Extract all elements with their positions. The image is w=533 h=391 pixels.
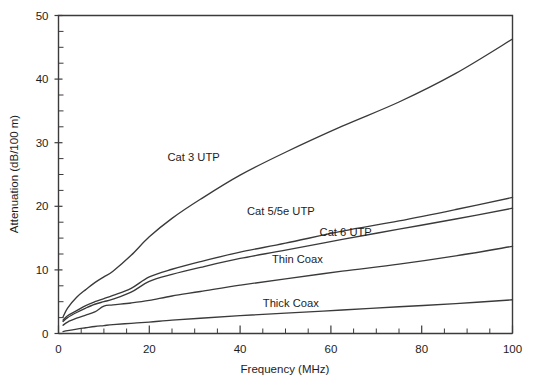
chart-canvas: 020406080100 01020304050 Cat 3 UTPCat 5/… xyxy=(0,0,533,391)
x-tick-label: 20 xyxy=(143,343,156,355)
y-tick-label: 30 xyxy=(36,137,49,149)
series-label: Thick Coax xyxy=(263,297,319,309)
y-axis-tick-labels: 01020304050 xyxy=(36,10,49,340)
x-tick-label: 40 xyxy=(234,343,247,355)
x-tick-label: 60 xyxy=(325,343,338,355)
y-tick-label: 40 xyxy=(36,73,49,85)
x-axis-title: Frequency (MHz) xyxy=(241,363,330,375)
series-label: Thin Coax xyxy=(272,253,323,265)
series-label: Cat 3 UTP xyxy=(167,151,219,163)
y-tick-label: 10 xyxy=(36,264,49,276)
attenuation-vs-frequency-chart: 020406080100 01020304050 Cat 3 UTPCat 5/… xyxy=(0,0,533,391)
y-tick-label: 0 xyxy=(42,328,48,340)
series-inline-labels: Cat 3 UTPCat 5/5e UTPCat 6 UTPThin CoaxT… xyxy=(167,151,371,309)
y-axis-title: Attenuation (dB/100 m) xyxy=(8,115,20,233)
x-tick-label: 80 xyxy=(415,343,428,355)
series-label: Cat 6 UTP xyxy=(320,226,372,238)
series-curve xyxy=(63,39,512,317)
x-axis-tick-labels: 020406080100 xyxy=(55,343,522,355)
y-axis-minor-ticks xyxy=(59,31,64,317)
x-axis-minor-ticks xyxy=(81,329,490,334)
data-series-curves xyxy=(63,39,512,332)
plot-frame xyxy=(59,16,513,334)
series-label: Cat 5/5e UTP xyxy=(247,205,315,217)
x-tick-label: 100 xyxy=(503,343,522,355)
y-tick-label: 50 xyxy=(36,10,49,22)
axis-frame xyxy=(59,16,513,334)
y-tick-label: 20 xyxy=(36,200,49,212)
x-tick-label: 0 xyxy=(55,343,61,355)
